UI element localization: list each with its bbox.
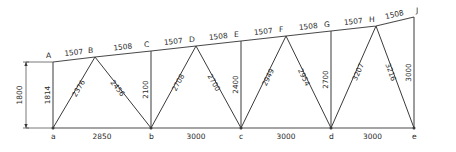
dimension-arrow-bot — [24, 124, 27, 128]
diagonal-label-Ba: 2376 — [70, 78, 87, 99]
top-segment-label-EF: 1507 — [253, 26, 273, 37]
dimension-arrow-top — [24, 62, 27, 66]
bottom-chord-segment-labels: 2850300030003000 — [93, 132, 383, 141]
diagonal-label-Fc: 2949 — [260, 67, 276, 88]
diagonal-label-He: 3216 — [383, 62, 398, 83]
vertical-label-Je: 3000 — [404, 63, 413, 82]
node-label-c: c — [239, 132, 243, 141]
top-chord-node-labels: ABCDEFGHJ — [46, 6, 418, 60]
node-label-C: C — [144, 40, 149, 49]
top-segment-label-GH: 1507 — [343, 16, 363, 27]
node-label-F: F — [279, 25, 283, 34]
top-segment-label-AB: 1507 — [64, 47, 84, 58]
node-label-A: A — [46, 51, 52, 60]
node-label-B: B — [88, 46, 93, 55]
top-segment-label-DE: 1508 — [208, 31, 228, 42]
top-segment-label-BC: 1508 — [113, 42, 133, 53]
node-label-J: J — [415, 6, 418, 15]
diagonal-label-Hd: 3207 — [350, 62, 366, 82]
top-segment-label-HJ: 1508 — [384, 8, 405, 21]
bottom-segment-label-ab: 2850 — [93, 132, 112, 141]
node-label-a: a — [51, 132, 56, 141]
node-label-D: D — [189, 35, 195, 44]
vertical-label-Aa: 1814 — [43, 85, 52, 104]
vertical-label-Cb: 2100 — [141, 80, 150, 99]
node-label-d: d — [329, 132, 334, 141]
vertical-label-Ec: 2400 — [231, 75, 240, 94]
joint-c — [240, 127, 243, 130]
node-label-b: b — [149, 132, 154, 141]
diagonal-label-Bb: 2456 — [109, 78, 128, 98]
node-label-e: e — [412, 132, 417, 141]
joint-d — [330, 127, 333, 130]
bottom-segment-label-cd: 3000 — [277, 132, 296, 141]
bottom-segment-label-bc: 3000 — [187, 132, 206, 141]
truss-diagram: 1800 ABCDEFGHJ abcde 1507150815071508150… — [0, 0, 456, 152]
vertical-label-Gd: 2700 — [321, 70, 330, 89]
node-label-E: E — [234, 30, 239, 39]
top-segment-label-FG: 1508 — [298, 21, 318, 32]
bottom-segment-label-de: 3000 — [363, 132, 382, 141]
diagonal-label-Db: 2708 — [170, 72, 187, 93]
joint-e — [413, 127, 416, 130]
top-segment-label-CD: 1507 — [163, 36, 183, 47]
dimension-label-1800: 1800 — [15, 85, 24, 104]
node-label-G: G — [324, 20, 330, 29]
node-label-H: H — [369, 15, 375, 24]
joint-b — [150, 127, 153, 130]
